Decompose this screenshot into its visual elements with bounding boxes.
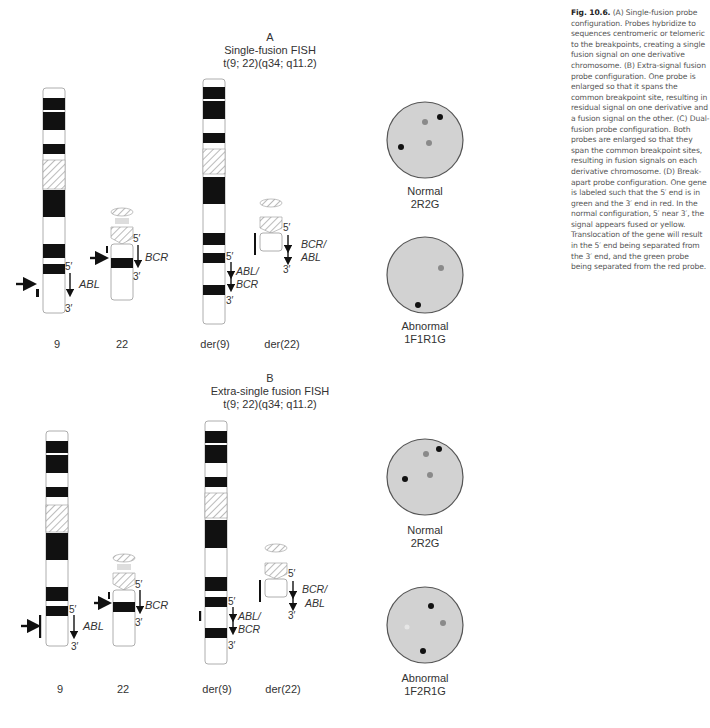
panel-b-title: Extra-single fusion FISH xyxy=(190,385,350,397)
nucleus-normal-b-label: Normal xyxy=(385,524,465,536)
nucleus-normal-b xyxy=(385,437,465,517)
figure-label: Fig. 10.6. xyxy=(571,8,610,17)
chr-label-der9-b: der(9) xyxy=(197,683,237,695)
chr-label-9: 9 xyxy=(42,338,72,350)
svg-text:3′: 3′ xyxy=(135,617,143,628)
nucleus-abnormal-b xyxy=(385,585,465,665)
gene-label-bcr-abl-b: BCR/ xyxy=(302,583,327,595)
chr-label-der22: der(22) xyxy=(257,338,307,350)
gene-label-bcr-abl: BCR/ xyxy=(301,238,326,250)
gene-label-bcr: BCR xyxy=(145,251,168,263)
svg-text:5′: 5′ xyxy=(135,579,143,590)
nucleus-abnormal-a-code: 1F1R1G xyxy=(385,333,465,345)
chr-label-der9: der(9) xyxy=(195,338,235,350)
nucleus-abnormal-b-label: Abnormal xyxy=(385,672,465,684)
chr-label-der22-b: der(22) xyxy=(258,683,308,695)
nucleus-abnormal-b-code: 1F2R1G xyxy=(385,685,465,697)
svg-text:3′: 3′ xyxy=(283,264,291,275)
nucleus-normal-b-code: 2R2G xyxy=(385,537,465,549)
panel-a-letter: A xyxy=(215,31,325,43)
svg-text:3′: 3′ xyxy=(133,271,141,282)
svg-text:3′: 3′ xyxy=(288,610,296,621)
chr-label-22: 22 xyxy=(107,338,137,350)
chr-label-22-b: 22 xyxy=(108,683,138,695)
svg-text:3′: 3′ xyxy=(226,295,234,306)
svg-text:5′: 5′ xyxy=(228,596,236,607)
svg-text:3′: 3′ xyxy=(228,640,236,651)
nucleus-abnormal-a xyxy=(385,235,465,315)
gene-label-bcr-b: BCR xyxy=(145,599,168,611)
panel-a-title: Single-fusion FISH xyxy=(195,44,345,56)
panel-b-karyotype: t(9; 22)(q34; q11.2) xyxy=(195,398,345,410)
gene-label-abl-2: ABL xyxy=(301,251,321,263)
figure-caption-text: (A) Single-fusion probe configuration. P… xyxy=(571,8,709,271)
svg-text:5′: 5′ xyxy=(133,233,141,244)
svg-text:3′: 3′ xyxy=(65,303,73,314)
svg-text:5′: 5′ xyxy=(283,222,291,233)
svg-text:5′: 5′ xyxy=(69,604,77,615)
figure-caption: Fig. 10.6. (A) Single-fusion probe confi… xyxy=(571,8,710,273)
svg-text:5′: 5′ xyxy=(65,261,73,272)
nucleus-abnormal-a-label: Abnormal xyxy=(385,320,465,332)
nucleus-normal-a-code: 2R2G xyxy=(385,198,465,210)
panel-b-letter: B xyxy=(215,372,325,384)
gene-label-abl-2-b: ABL xyxy=(305,597,325,609)
panel-a-karyotype: t(9; 22)(q34; q11.2) xyxy=(195,57,345,69)
nucleus-normal-a-label: Normal xyxy=(385,185,465,197)
svg-text:5′: 5′ xyxy=(288,568,296,579)
svg-text:3′: 3′ xyxy=(71,641,79,652)
svg-text:5′: 5′ xyxy=(226,251,234,262)
nucleus-normal-a xyxy=(385,100,465,180)
chr-label-9-b: 9 xyxy=(45,683,75,695)
